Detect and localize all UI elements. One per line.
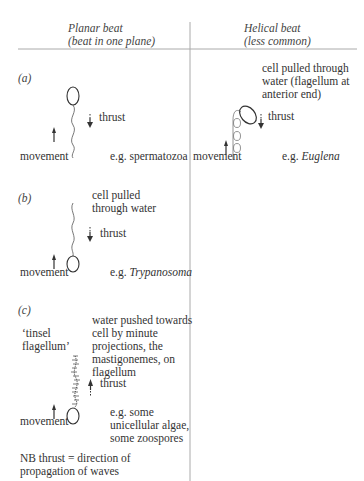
- thrust-arrow-down-a-icon: [87, 114, 93, 128]
- panel-a-example: e.g. spermatozoa: [110, 150, 188, 163]
- planar-column-header: Planar beat (beat in one plane): [68, 22, 155, 48]
- tinsel-flagellum-label: ‘tinsel flagellum’: [22, 327, 70, 353]
- panel-b-label: (b): [18, 192, 31, 204]
- planar-subtitle: (beat in one plane): [68, 35, 155, 48]
- panel-a-label: (a): [18, 72, 31, 84]
- panel-c-movement-label: movement: [20, 415, 69, 428]
- spermatozoa-name: spermatozoa: [129, 150, 187, 162]
- panel-c-note: water pushed towards cell by minute proj…: [92, 314, 192, 379]
- trypanosoma-cell-icon: [67, 203, 79, 272]
- panel-a-movement-label: movement: [20, 150, 69, 163]
- euglena-name: Euglena: [301, 150, 339, 162]
- helical-subtitle: (less common): [244, 35, 311, 48]
- planar-title: Planar beat: [68, 22, 155, 35]
- movement-arrow-up-a-icon: [52, 127, 56, 142]
- footnote: NB thrust = direction of propagation of …: [20, 452, 131, 478]
- panel-c-example: e.g. some unicellular algae, some zoospo…: [110, 406, 189, 445]
- panel-b-movement-label: movement: [20, 266, 69, 279]
- panel-b-example: e.g. Trypanosoma: [110, 266, 192, 279]
- panel-b-note: cell pulled through water: [92, 189, 156, 215]
- helical-title: Helical beat: [244, 22, 311, 35]
- helical-example: e.g. Euglena: [282, 150, 340, 163]
- panel-b-thrust-label: thrust: [100, 227, 126, 240]
- sperm-cell-icon: [67, 87, 79, 158]
- panel-c-thrust-label: thrust: [100, 377, 126, 390]
- helical-column-header: Helical beat (less common): [244, 22, 311, 48]
- tinsel-flagellum-cell-icon: [67, 356, 80, 424]
- thrust-arrow-down-b-icon: [87, 227, 93, 242]
- panel-c-label: (c): [18, 304, 31, 316]
- trypanosoma-name: Trypanosoma: [129, 266, 192, 278]
- helical-note: cell pulled through water (flagellum at …: [262, 62, 350, 101]
- thrust-arrow-down-helical-icon: [258, 114, 264, 129]
- panel-a-thrust-label: thrust: [99, 111, 125, 124]
- thrust-arrow-up-c-icon: [88, 379, 93, 396]
- helical-thrust-label: thrust: [268, 110, 294, 123]
- helical-movement-label: movement: [193, 150, 242, 163]
